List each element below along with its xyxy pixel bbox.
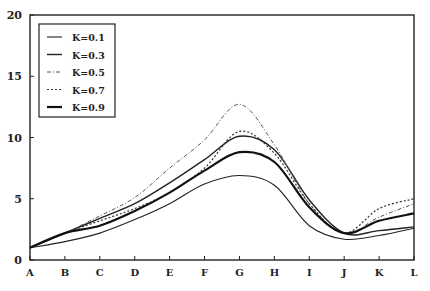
x-tick-label: E xyxy=(166,267,174,278)
y-tick-label: 5 xyxy=(14,193,22,206)
x-tick-label: B xyxy=(61,267,69,278)
x-tick-label: A xyxy=(25,267,34,278)
x-tick-label: I xyxy=(307,267,312,278)
legend-label: K=0.1 xyxy=(72,32,105,43)
x-axis: ABCDEFGHIJKL xyxy=(25,256,417,278)
x-tick-label: D xyxy=(130,267,139,278)
series-line-k-0-5 xyxy=(30,104,414,247)
legend: K=0.1K=0.3K=0.5K=0.7K=0.9 xyxy=(39,24,115,117)
series-line-k-0-1 xyxy=(30,175,414,247)
series-lines xyxy=(30,104,414,247)
x-tick-label: L xyxy=(410,267,417,278)
x-tick-label: C xyxy=(96,267,104,278)
series-line-k-0-9 xyxy=(30,152,414,248)
legend-label: K=0.7 xyxy=(72,85,105,96)
x-tick-label: J xyxy=(341,267,347,278)
x-tick-label: K xyxy=(375,267,384,278)
legend-label: K=0.3 xyxy=(72,50,105,61)
line-chart: 05101520 ABCDEFGHIJKL K=0.1K=0.3K=0.5K=0… xyxy=(0,0,430,291)
x-tick-label: F xyxy=(201,267,208,278)
y-tick-label: 20 xyxy=(7,9,23,22)
legend-label: K=0.9 xyxy=(72,102,105,113)
y-tick-label: 10 xyxy=(7,132,23,145)
x-tick-label: G xyxy=(235,267,244,278)
y-tick-label: 0 xyxy=(14,254,22,267)
legend-label: K=0.5 xyxy=(72,67,105,78)
y-tick-label: 15 xyxy=(7,70,22,83)
x-tick-label: H xyxy=(270,267,279,278)
